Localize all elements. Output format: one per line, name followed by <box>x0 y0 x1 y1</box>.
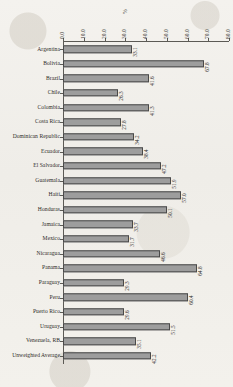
bar-track: 42.2 <box>63 348 233 363</box>
bar-value-label: 57.0 <box>181 194 187 203</box>
category-label: El Salvador <box>0 163 63 169</box>
category-axis-tick <box>60 327 63 328</box>
bar-track: 33.1 <box>63 42 233 57</box>
bar-row: Venezuela, RB35.1 <box>0 334 233 349</box>
bar-row: Panama64.8 <box>0 261 233 276</box>
bar-track: 29.6 <box>63 305 233 320</box>
bar-track: 51.5 <box>63 319 233 334</box>
bar-value-label: 35.1 <box>136 340 142 349</box>
category-label: Mexico <box>0 236 63 242</box>
bar-row: Brazil41.6 <box>0 71 233 86</box>
axis-tick-label: 10.0 <box>80 29 86 39</box>
bar-row: Dominican Republic34.2 <box>0 130 233 145</box>
bar-value-label: 29.6 <box>124 310 130 319</box>
category-label: Panama <box>0 265 63 271</box>
category-axis-tick <box>60 268 63 269</box>
bar-track: 50.1 <box>63 203 233 218</box>
bar-row: Haiti57.0 <box>0 188 233 203</box>
bar <box>63 337 136 344</box>
bar-row: Paraguay29.3 <box>0 276 233 291</box>
bar <box>63 133 134 140</box>
category-axis-tick <box>60 341 63 342</box>
bar-row: Honduras50.1 <box>0 203 233 218</box>
bar <box>63 265 197 272</box>
axis-tick-label: 70.0 <box>204 29 210 39</box>
bar-track: 35.1 <box>63 334 233 349</box>
axis-tick-label: 60.0 <box>184 29 190 39</box>
bar-value-label: 33.7 <box>133 223 139 232</box>
category-label: Honduras <box>0 207 63 213</box>
bar-value-label: 51.9 <box>171 179 177 188</box>
category-axis-tick <box>60 108 63 109</box>
bar-track: 60.4 <box>63 290 233 305</box>
bar-row: Jamaica33.7 <box>0 217 233 232</box>
bar-track: 34.2 <box>63 130 233 145</box>
category-axis-tick <box>60 49 63 50</box>
bar <box>63 352 151 359</box>
bar-value-label: 50.1 <box>167 208 173 217</box>
axis-tick-label: 40.0 <box>142 29 148 39</box>
bar-track: 41.3 <box>63 100 233 115</box>
axis-tick-label: 20.0 <box>101 29 107 39</box>
bar <box>63 279 124 286</box>
bar-row: Puerto Rico29.6 <box>0 305 233 320</box>
bar <box>63 192 181 199</box>
bar <box>63 148 143 155</box>
category-axis-tick <box>60 166 63 167</box>
bar-track: 38.4 <box>63 144 233 159</box>
bar-row: Costa Rica27.8 <box>0 115 233 130</box>
horizontal-bar-chart: % 0.010.020.030.040.050.060.070.080.0 Ar… <box>0 0 233 387</box>
category-label: Paraguay <box>0 280 63 286</box>
bar-row: El Salvador47.2 <box>0 159 233 174</box>
bar-value-label: 47.2 <box>161 164 167 173</box>
bar-track: 46.6 <box>63 246 233 261</box>
bar <box>63 206 167 213</box>
bar <box>63 323 170 330</box>
bar-track: 31.7 <box>63 232 233 247</box>
bar-row: Ecuador38.4 <box>0 144 233 159</box>
bar-track: 64.8 <box>63 261 233 276</box>
category-label: Venezuela, RB <box>0 338 63 344</box>
category-axis-tick <box>60 356 63 357</box>
bar-value-label: 29.3 <box>124 281 130 290</box>
category-label: Costa Rica <box>0 119 63 125</box>
category-label: Chile <box>0 90 63 96</box>
category-axis-tick <box>60 283 63 284</box>
bar-row: Argentina33.1 <box>0 42 233 57</box>
category-label: Haiti <box>0 192 63 198</box>
bar-row: Mexico31.7 <box>0 232 233 247</box>
bar <box>63 177 171 184</box>
bar <box>63 60 204 67</box>
category-label: Nicaragua <box>0 251 63 257</box>
bar <box>63 89 118 96</box>
bar <box>63 221 133 228</box>
bar-track: 67.8 <box>63 57 233 72</box>
bar-row: Unweighted Average42.2 <box>0 348 233 363</box>
category-axis-tick <box>60 298 63 299</box>
bar-row: Peru60.4 <box>0 290 233 305</box>
bar-value-label: 46.6 <box>160 252 166 261</box>
category-axis-tick <box>60 93 63 94</box>
bar-value-label: 51.5 <box>170 325 176 334</box>
bar-value-label: 26.3 <box>118 91 124 100</box>
bar-row: Chile26.3 <box>0 86 233 101</box>
category-axis-tick <box>60 210 63 211</box>
bar-value-label: 33.1 <box>132 48 138 57</box>
category-axis-tick <box>60 181 63 182</box>
category-label: Ecuador <box>0 149 63 155</box>
bar-track: 51.9 <box>63 173 233 188</box>
bar <box>63 75 149 82</box>
category-axis-tick <box>60 137 63 138</box>
category-axis-tick <box>60 64 63 65</box>
axis-tick-label: 80.0 <box>225 29 231 39</box>
category-axis-tick <box>60 225 63 226</box>
category-label: Brazil <box>0 76 63 82</box>
category-axis-tick <box>60 195 63 196</box>
bar-track: 33.7 <box>63 217 233 232</box>
category-label: Colombia <box>0 105 63 111</box>
category-axis-tick <box>60 312 63 313</box>
category-label: Dominican Republic <box>0 134 63 140</box>
bar-track: 29.3 <box>63 276 233 291</box>
bar-track: 27.8 <box>63 115 233 130</box>
category-label: Peru <box>0 295 63 301</box>
